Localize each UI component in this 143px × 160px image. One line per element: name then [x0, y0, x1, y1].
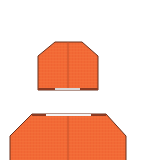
- upper-block: [38, 42, 98, 90]
- upper-block-bottom-edge-middle: [55, 88, 80, 90]
- lower-block: [10, 114, 126, 160]
- upper-block-bottom-edge-right: [80, 88, 98, 90]
- illustration-canvas: [0, 0, 143, 160]
- lower-block-top-edge-left: [32, 114, 46, 116]
- lower-block-top-edge-middle: [46, 114, 91, 116]
- lower-block-top-edge-right: [91, 114, 106, 116]
- upper-block-bottom-edge-left: [38, 88, 55, 90]
